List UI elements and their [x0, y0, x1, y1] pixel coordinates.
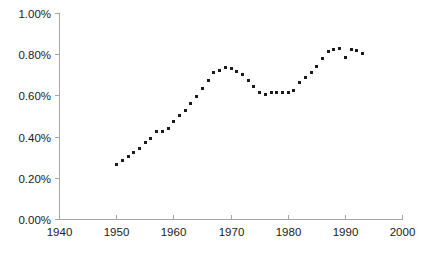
data-point [332, 48, 335, 51]
y-axis-tick-label: 0.00% [18, 214, 51, 226]
x-axis-tick-label: 1950 [104, 226, 130, 238]
data-point [287, 91, 290, 94]
data-point [298, 81, 301, 84]
x-axis-tick-label: 1980 [276, 226, 302, 238]
data-point [338, 47, 341, 50]
data-point [252, 85, 255, 88]
data-point [235, 70, 238, 73]
data-point [281, 91, 284, 94]
y-axis-tick-label: 0.60% [18, 90, 51, 102]
y-axis-tick-label: 0.20% [18, 173, 51, 185]
data-point [310, 71, 313, 74]
x-axis-tick-label: 2000 [390, 226, 416, 238]
y-axis-tick-label: 0.80% [18, 49, 51, 61]
data-point [230, 67, 233, 70]
data-point [195, 95, 198, 98]
data-point [241, 73, 244, 76]
data-point [178, 114, 181, 117]
data-point [321, 57, 324, 60]
data-point [132, 151, 135, 154]
x-axis-tick-label: 1970 [219, 226, 245, 238]
y-axis-tick-label: 0.40% [18, 132, 51, 144]
data-point [264, 93, 267, 96]
data-point [121, 159, 124, 162]
data-point [149, 137, 152, 140]
x-axis: 1940195019601970198019902000 [47, 215, 416, 238]
data-point [184, 109, 187, 112]
data-point [201, 87, 204, 90]
scatter-plot: 0.00%0.20%0.40%0.60%0.80%1.00% 194019501… [0, 0, 422, 258]
data-point [344, 56, 347, 59]
data-point [167, 127, 170, 130]
y-axis-tick-label: 1.00% [18, 8, 51, 20]
y-axis: 0.00%0.20%0.40%0.60%0.80%1.00% [18, 8, 59, 226]
data-point [292, 89, 295, 92]
data-point [161, 130, 164, 133]
data-point [247, 79, 250, 82]
data-point [304, 76, 307, 79]
x-axis-tick-label: 1940 [47, 226, 73, 238]
data-point [315, 65, 318, 68]
data-point [258, 91, 261, 94]
data-point [270, 91, 273, 94]
data-point [327, 50, 330, 53]
data-point [355, 49, 358, 52]
data-point [361, 52, 364, 55]
data-point [212, 71, 215, 74]
data-point [144, 141, 147, 144]
data-point [115, 163, 118, 166]
data-point-series [115, 47, 364, 166]
data-point [138, 147, 141, 150]
data-point [224, 66, 227, 69]
data-point [172, 120, 175, 123]
data-point [127, 155, 130, 158]
chart-container: 0.00%0.20%0.40%0.60%0.80%1.00% 194019501… [0, 0, 422, 258]
x-axis-tick-label: 1960 [161, 226, 187, 238]
data-point [275, 91, 278, 94]
data-point [350, 48, 353, 51]
x-axis-tick-label: 1990 [333, 226, 359, 238]
data-point [155, 130, 158, 133]
data-point [207, 79, 210, 82]
data-point [189, 102, 192, 105]
data-point [218, 69, 221, 72]
